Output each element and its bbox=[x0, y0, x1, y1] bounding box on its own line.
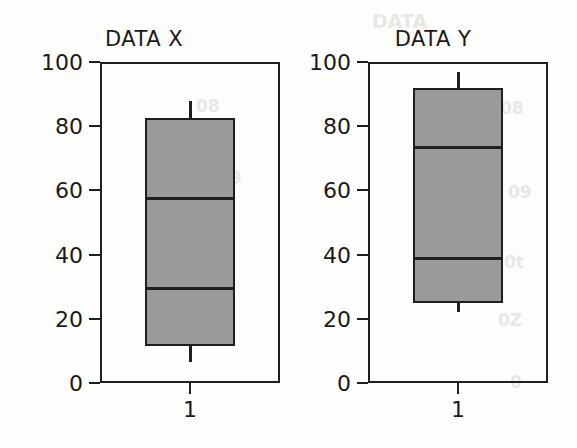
y-axis-tick-label: 60 bbox=[5, 178, 83, 203]
y-axis-tick-mark bbox=[89, 125, 100, 127]
inner-quantile-line bbox=[413, 257, 503, 260]
y-axis-tick-mark bbox=[89, 318, 100, 320]
x-axis-tick-label: 1 bbox=[150, 397, 230, 422]
y-axis-tick-label: 80 bbox=[5, 114, 83, 139]
y-axis-tick-mark bbox=[89, 61, 100, 63]
y-axis-tick-mark bbox=[357, 189, 368, 191]
inner-quantile-line bbox=[145, 287, 235, 290]
y-axis-tick-mark bbox=[357, 382, 368, 384]
y-axis-tick-label: 100 bbox=[5, 50, 83, 75]
x-axis-tick-mark bbox=[457, 383, 459, 394]
panel-data-x: DATA X 0204060801001 bbox=[0, 0, 288, 448]
box-iqr bbox=[413, 88, 503, 303]
y-axis-tick-label: 0 bbox=[5, 371, 83, 396]
y-axis-tick-label: 60 bbox=[273, 178, 351, 203]
y-axis-tick-label: 20 bbox=[273, 306, 351, 331]
y-axis-tick-label: 0 bbox=[273, 371, 351, 396]
y-axis-tick-mark bbox=[89, 189, 100, 191]
panel-title-data-x: DATA X bbox=[0, 27, 288, 51]
y-axis-tick-mark bbox=[89, 382, 100, 384]
whisker-lower bbox=[457, 303, 460, 313]
box-iqr bbox=[145, 118, 235, 346]
y-axis-tick-label: 80 bbox=[273, 114, 351, 139]
y-axis-tick-mark bbox=[357, 125, 368, 127]
median-line bbox=[413, 146, 503, 149]
median-line bbox=[145, 197, 235, 200]
x-axis-tick-mark bbox=[189, 383, 191, 394]
whisker-lower bbox=[189, 346, 192, 362]
y-axis-tick-mark bbox=[357, 254, 368, 256]
panel-title-data-y: DATA Y bbox=[289, 27, 577, 51]
y-axis-tick-mark bbox=[357, 318, 368, 320]
x-axis-tick-label: 1 bbox=[418, 397, 498, 422]
figure-canvas: DATA08090t08090t0Z0 DATA X 0204060801001… bbox=[0, 0, 577, 448]
y-axis-tick-mark bbox=[89, 254, 100, 256]
y-axis-tick-label: 20 bbox=[5, 306, 83, 331]
y-axis-tick-label: 40 bbox=[5, 242, 83, 267]
whisker-upper bbox=[457, 72, 460, 88]
y-axis-tick-label: 100 bbox=[273, 50, 351, 75]
whisker-upper bbox=[189, 101, 192, 119]
y-axis-tick-label: 40 bbox=[273, 242, 351, 267]
panel-data-y: DATA Y 0204060801001 bbox=[289, 0, 577, 448]
y-axis-tick-mark bbox=[357, 61, 368, 63]
